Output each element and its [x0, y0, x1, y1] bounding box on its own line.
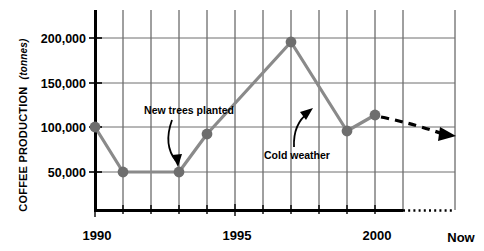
y-tick-label: 50,000	[48, 166, 86, 180]
y-axis-title-main: COFFEE PRODUCTION	[17, 87, 29, 212]
annotation-cold-weather-label: Cold weather	[264, 149, 330, 161]
y-tick-label: 150,000	[41, 77, 86, 91]
annotation-new-trees-label: New trees planted	[144, 104, 234, 116]
coffee-production-chart: New trees planted Cold weather 200,000 1…	[0, 0, 484, 251]
y-tick-labels: 200,000 150,000 100,000 50,000	[41, 32, 86, 180]
svg-text:COFFEE PRODUCTION (ton: COFFEE PRODUCTION (tonnes)	[17, 38, 29, 212]
y-axis-title-unit: (tonnes)	[18, 38, 29, 80]
x-tick-label: 1995	[223, 228, 252, 243]
x-tick-label: Now	[447, 230, 475, 245]
annotation-cold-weather: Cold weather	[264, 108, 330, 161]
y-axis-title: COFFEE PRODUCTION (tonnes)	[17, 38, 29, 212]
y-tick-label: 100,000	[41, 121, 86, 135]
y-tick-label: 200,000	[41, 32, 86, 46]
data-point	[286, 37, 297, 48]
projected-trend-arrow	[381, 117, 456, 141]
data-point	[174, 167, 185, 178]
x-tick-label: 1990	[83, 228, 112, 243]
x-tick-label: 2000	[363, 228, 392, 243]
data-point	[202, 129, 213, 140]
x-tick-labels: 1990 1995 2000 Now	[83, 228, 476, 245]
data-point	[370, 110, 381, 121]
data-point	[90, 122, 101, 133]
data-point	[342, 126, 353, 137]
data-point	[118, 167, 129, 178]
